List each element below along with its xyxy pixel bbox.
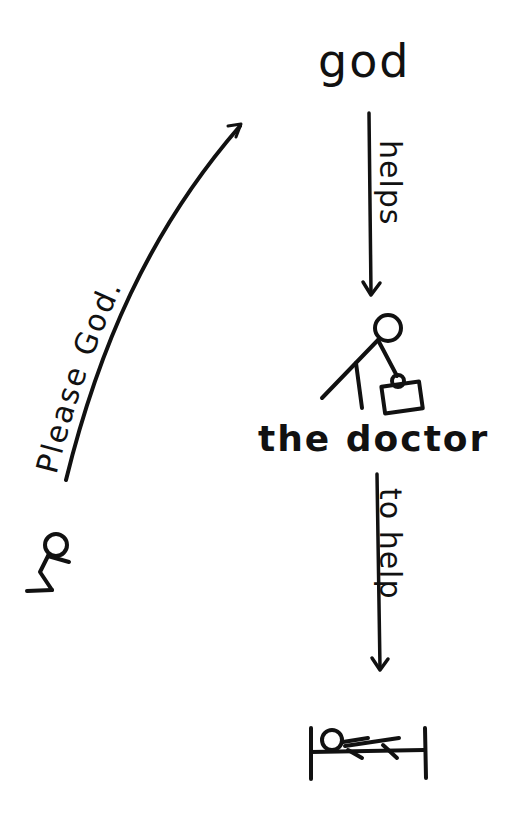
- prayer-label: Please God.: [29, 273, 129, 476]
- patient-in-bed-icon: [311, 728, 426, 779]
- kneeling-figure-icon: [27, 534, 69, 591]
- to-help-label: to help: [373, 488, 408, 600]
- god-label: god: [318, 34, 411, 88]
- doctor-figure-icon: [322, 315, 423, 414]
- helps-label: helps: [373, 140, 408, 225]
- doctor-label: the doctor: [258, 418, 489, 459]
